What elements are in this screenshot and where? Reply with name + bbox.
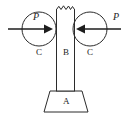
label-column-B: B: [63, 48, 69, 57]
diagram-canvas: P P C C B A: [0, 0, 129, 116]
label-base-A: A: [63, 97, 70, 106]
label-roller-left-C: C: [36, 48, 42, 57]
label-force-left-P: P: [33, 12, 39, 22]
label-force-right-P: P: [113, 12, 119, 22]
label-roller-right-C: C: [87, 48, 93, 57]
